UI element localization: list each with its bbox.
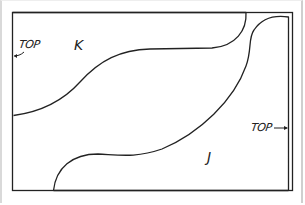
piece-k-outline xyxy=(13,13,247,116)
piece-k-top-marker: TOP xyxy=(18,38,40,51)
piece-j-label: J xyxy=(207,149,211,165)
k-top-arrowhead-icon xyxy=(14,54,17,58)
piece-j-top-marker: TOP xyxy=(250,121,272,134)
pattern-layout-diagram xyxy=(0,0,305,205)
piece-j-outline xyxy=(54,16,289,190)
piece-k-label: K xyxy=(74,37,83,53)
j-top-arrowhead-icon xyxy=(284,126,288,130)
